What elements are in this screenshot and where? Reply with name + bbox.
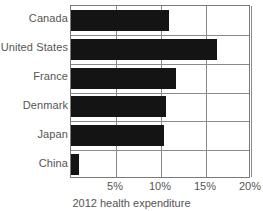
horizontal-gridline-4	[71, 121, 249, 122]
chart-caption: 2012 health expenditure	[0, 197, 263, 211]
vertical-gridline-20	[251, 6, 252, 177]
bar-denmark	[71, 96, 166, 117]
bar-united-states	[71, 39, 217, 60]
horizontal-gridline-2	[71, 64, 249, 65]
vertical-gridline-15	[206, 6, 207, 177]
bar-chart: Canada United States France Denmark Japa…	[0, 0, 263, 211]
category-label-japan: Japan	[0, 129, 68, 140]
category-label-canada: Canada	[0, 13, 68, 24]
horizontal-gridline-5	[71, 150, 249, 151]
category-label-united-states: United States	[0, 42, 68, 53]
x-tick-label-5: 5%	[107, 180, 123, 192]
x-tick-label-20: 20%	[239, 180, 261, 192]
horizontal-gridline-1	[71, 35, 249, 36]
x-tick-label-10: 10%	[149, 180, 171, 192]
value-axis: 5% 10% 15% 20%	[70, 180, 250, 194]
vertical-gridline-5	[116, 6, 117, 177]
bar-china	[71, 154, 79, 175]
category-label-france: France	[0, 71, 68, 82]
bar-france	[71, 68, 176, 89]
vertical-gridline-10	[161, 6, 162, 177]
plot-area	[70, 5, 250, 178]
bar-canada	[71, 10, 169, 31]
x-tick-label-15: 15%	[194, 180, 216, 192]
horizontal-gridline-3	[71, 93, 249, 94]
category-label-denmark: Denmark	[0, 100, 68, 111]
category-label-china: China	[0, 158, 68, 169]
category-axis: Canada United States France Denmark Japa…	[0, 5, 68, 178]
bar-japan	[71, 125, 164, 146]
